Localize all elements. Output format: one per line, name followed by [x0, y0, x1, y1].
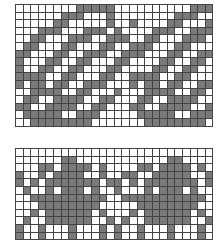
grid-cell [175, 20, 183, 28]
grid-cell [206, 164, 214, 172]
grid-cell [168, 13, 176, 21]
grid-cell [100, 104, 108, 112]
grid-cell [31, 217, 39, 225]
grid-cell [122, 58, 130, 66]
swirl-motif-chart [15, 4, 213, 127]
grid-cell [145, 195, 153, 203]
grid-cell [54, 13, 62, 21]
grid-cell [62, 210, 70, 218]
grid-cell [175, 5, 183, 13]
grid-cell [130, 58, 138, 66]
grid-cell [84, 13, 92, 21]
grid-cell [191, 5, 199, 13]
grid-cell [138, 58, 146, 66]
grid-cell [84, 111, 92, 119]
grid-cell [31, 164, 39, 172]
grid-cell [24, 5, 32, 13]
grid-cell [130, 149, 138, 157]
grid-cell [115, 20, 123, 28]
grid-cell [206, 66, 214, 74]
grid-cell [62, 73, 70, 81]
grid-cell [62, 43, 70, 51]
grid-cell [100, 58, 108, 66]
grid-cell [39, 210, 47, 218]
grid-cell [198, 28, 206, 36]
grid-cell [168, 179, 176, 187]
grid-cell [69, 225, 77, 233]
grid-cell [115, 111, 123, 119]
grid-cell [62, 187, 70, 195]
grid-cell [100, 233, 108, 241]
grid-cell [206, 73, 214, 81]
grid-cell [115, 210, 123, 218]
grid-cell [46, 217, 54, 225]
grid-cell [100, 157, 108, 165]
grid-cell [168, 225, 176, 233]
grid-cell [145, 5, 153, 13]
grid-cell [153, 187, 161, 195]
grid-cell [175, 28, 183, 36]
grid-cell [115, 43, 123, 51]
grid-cell [122, 157, 130, 165]
grid-cell [130, 233, 138, 241]
grid-cell [107, 225, 115, 233]
grid-cell [16, 225, 24, 233]
grid-cell [54, 73, 62, 81]
grid-cell [39, 172, 47, 180]
grid-cell [107, 81, 115, 89]
grid-cell [130, 51, 138, 59]
grid-cell [160, 66, 168, 74]
grid-cell [100, 172, 108, 180]
grid-cell [191, 51, 199, 59]
grid-cell [62, 66, 70, 74]
grid-cell [138, 179, 146, 187]
grid-cell [145, 217, 153, 225]
grid-cell [31, 66, 39, 74]
grid-cell [92, 217, 100, 225]
grid-cell [77, 96, 85, 104]
grid-cell [54, 225, 62, 233]
grid-cell [54, 51, 62, 59]
grid-cell [16, 5, 24, 13]
grid-cell [160, 96, 168, 104]
grid-cell [175, 58, 183, 66]
grid-cell [145, 81, 153, 89]
grid-cell [54, 111, 62, 119]
grid-cell [24, 233, 32, 241]
grid-cell [138, 202, 146, 210]
grid-cell [153, 35, 161, 43]
grid-cell [62, 217, 70, 225]
grid-cell [153, 104, 161, 112]
grid-cell [84, 195, 92, 203]
grid-cell [198, 111, 206, 119]
grid-cell [100, 179, 108, 187]
grid-cell [168, 66, 176, 74]
grid-cell [16, 157, 24, 165]
grid-cell [168, 20, 176, 28]
grid-cell [46, 43, 54, 51]
grid-cell [16, 104, 24, 112]
grid-cell [24, 179, 32, 187]
grid-cell [46, 35, 54, 43]
grid-cell [206, 179, 214, 187]
grid-cell [160, 149, 168, 157]
grid-cell [39, 20, 47, 28]
grid-cell [100, 225, 108, 233]
grid-cell [69, 35, 77, 43]
grid-cell [84, 179, 92, 187]
grid-cell [130, 225, 138, 233]
grid-cell [145, 13, 153, 21]
grid-cell [145, 210, 153, 218]
grid-cell [69, 28, 77, 36]
grid-cell [191, 20, 199, 28]
grid-cell [153, 210, 161, 218]
grid-cell [138, 20, 146, 28]
grid-cell [77, 73, 85, 81]
grid-cell [160, 179, 168, 187]
grid-cell [115, 187, 123, 195]
grid-cell [107, 217, 115, 225]
grid-cell [130, 43, 138, 51]
grid-cell [191, 172, 199, 180]
grid-cell [145, 225, 153, 233]
grid-cell [107, 5, 115, 13]
